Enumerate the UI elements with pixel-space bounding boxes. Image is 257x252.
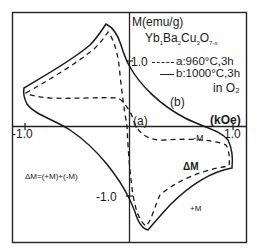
formula-ba: Ba: [163, 31, 178, 45]
formula-yb: Yb: [145, 31, 160, 45]
y-axis-label: M(emu/g): [132, 16, 183, 28]
curve-b-label: (b): [170, 96, 185, 108]
curve-a-label: (a): [133, 115, 148, 127]
compound-formula: Yb1Ba2Cu3O7-x: [145, 32, 217, 46]
plus-m-label: +M: [190, 205, 201, 213]
formula-sub4: 7-x: [209, 40, 217, 46]
y-tick-label-pos1: 1.0: [131, 56, 148, 68]
minus-m-label: -M: [193, 134, 204, 143]
x-tick-label-neg1: -1.0: [12, 128, 33, 140]
delta-m-label: ΔM: [183, 162, 199, 172]
atmosphere-label: in O₂: [213, 82, 240, 94]
formula-o: O: [200, 31, 209, 45]
x-tick-label-pos1: 1.0: [224, 128, 241, 140]
delta-m-definition: ΔM=(+M)+(-M): [25, 173, 78, 181]
legend-b-label: b:1000°C,3h: [176, 68, 240, 80]
y-tick-label-neg1: -1.0: [96, 191, 117, 203]
legend-a-line: [152, 62, 174, 63]
legend-b-line: [160, 74, 174, 75]
x-axis-label: (kOe): [210, 114, 241, 126]
formula-cu: Cu: [181, 31, 196, 45]
legend-a-label: a:960°C,3h: [176, 56, 234, 68]
